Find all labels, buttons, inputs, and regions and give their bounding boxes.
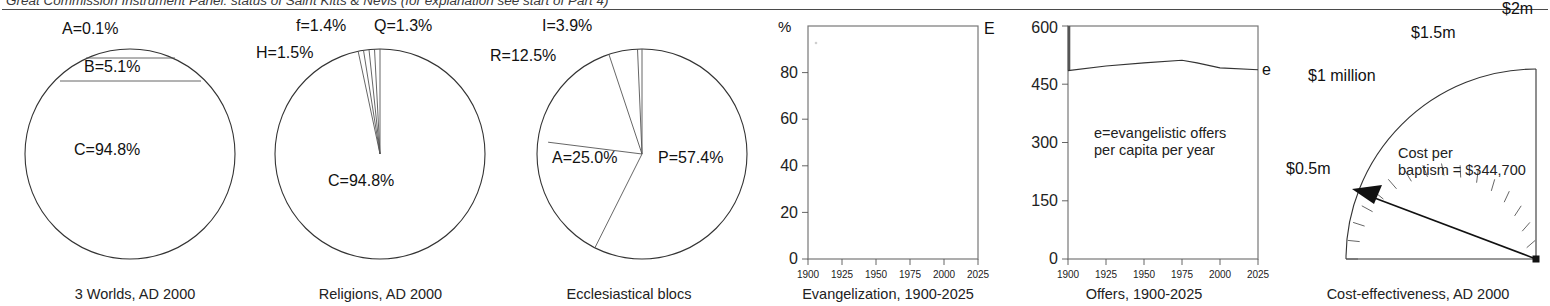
evang-ytick-20: 20 [780, 204, 798, 221]
label-religion-q: Q=1.3% [374, 17, 432, 35]
evangelization-series-label: E [984, 20, 995, 38]
label-bloc-i: I=3.9% [542, 17, 592, 35]
label-bloc-a: A=25.0% [552, 149, 617, 167]
offers-xtick-1900: 1900 [1057, 269, 1080, 280]
evang-ytick-40: 40 [780, 157, 798, 174]
evang-xtick-1900: 1900 [797, 269, 820, 280]
evang-xtick-1975: 1975 [899, 269, 922, 280]
offers-note-line-2: per capita per year [1094, 142, 1226, 159]
label-world-a: A=0.1% [62, 20, 118, 38]
offers-xtick-2025: 2025 [1247, 269, 1270, 280]
gauge-label-half-million: $0.5m [1286, 160, 1330, 178]
evangelization-y-axis-label: % [778, 18, 791, 35]
offers-graphic: 0 150 300 450 600 1900 1925 1950 1975 20… [1000, 14, 1288, 306]
chart-3-worlds: A=0.1% B=5.1% C=94.8% 3 Worlds, AD 2000 [0, 14, 270, 306]
caption-religions: Religions, AD 2000 [258, 286, 503, 302]
offers-ytick-600: 600 [1031, 19, 1058, 36]
offers-xtick-1950: 1950 [1133, 269, 1156, 280]
offers-ytick-150: 150 [1031, 192, 1058, 209]
label-bloc-r: R=12.5% [490, 47, 556, 65]
label-religion-c: C=94.8% [328, 172, 394, 190]
offers-ytick-300: 300 [1031, 134, 1058, 151]
evang-xtick-1950: 1950 [865, 269, 888, 280]
caption-cost-effectiveness: Cost-effectiveness, AD 2000 [1286, 286, 1550, 302]
offers-note-line-1: e=evangelistic offers [1094, 125, 1226, 142]
caption-evangelization: Evangelization, 1900-2025 [768, 286, 1008, 302]
evang-xtick-1925: 1925 [831, 269, 854, 280]
offers-ytick-0: 0 [1049, 250, 1058, 267]
caption-blocs: Ecclesiastical blocs [490, 286, 768, 302]
evang-xtick-2000: 2000 [933, 269, 956, 280]
chart-evangelization: 0 20 40 60 80 1900 1925 1950 1975 2000 2… [768, 14, 1008, 306]
chart-offers: 0 150 300 450 600 1900 1925 1950 1975 20… [1000, 14, 1288, 306]
label-world-c: C=94.8% [74, 141, 140, 159]
chart-ecclesiastical-blocs: I=3.9% R=12.5% A=25.0% P=57.4% Ecclesias… [490, 14, 768, 306]
gauge-label-two-million: $2m [1502, 0, 1533, 18]
instrument-panel: Great Commission Instrument Panel: statu… [0, 0, 1550, 306]
offers-xtick-2000: 2000 [1209, 269, 1232, 280]
gauge-readout-line-1: Cost per [1398, 145, 1526, 162]
chart-religions: H=1.5% f=1.4% Q=1.3% C=94.8% Religions, … [258, 14, 503, 306]
gauge-label-one-million: $1 million [1308, 67, 1376, 85]
evang-ytick-60: 60 [780, 110, 798, 127]
label-religion-f: f=1.4% [296, 17, 346, 35]
header-divider [2, 9, 1548, 10]
caption-offers: Offers, 1900-2025 [1000, 286, 1288, 302]
evang-ytick-80: 80 [780, 64, 798, 81]
offers-ytick-450: 450 [1031, 76, 1058, 93]
caption-3-worlds: 3 Worlds, AD 2000 [0, 286, 270, 302]
evangelization-graphic: 0 20 40 60 80 1900 1925 1950 1975 2000 2… [768, 14, 1008, 306]
offers-xtick-1975: 1975 [1171, 269, 1194, 280]
page-title: Great Commission Instrument Panel: statu… [6, 0, 1206, 8]
gauge-label-one-and-half-million: $1.5m [1411, 24, 1455, 42]
offers-series-label: e [1262, 61, 1271, 79]
gauge-readout-line-2: baptism = $344,700 [1398, 162, 1526, 179]
label-world-b: B=5.1% [84, 58, 140, 76]
evang-xtick-2025: 2025 [967, 269, 990, 280]
label-religion-h: H=1.5% [256, 44, 313, 62]
label-bloc-p: P=57.4% [658, 149, 723, 167]
offers-xtick-1925: 1925 [1095, 269, 1118, 280]
evang-ytick-0: 0 [789, 250, 798, 267]
chart-cost-effectiveness: $0.5m $1 million $1.5m $2m Cost per bapt… [1286, 14, 1550, 306]
